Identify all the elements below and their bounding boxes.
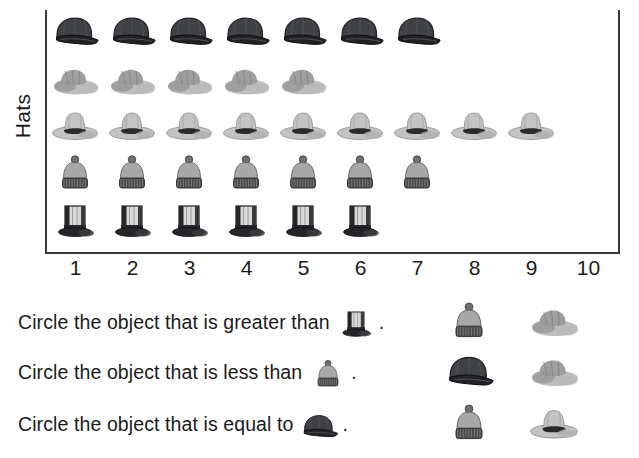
pictograph-icon-cell	[389, 102, 446, 149]
x-axis-tick: 4	[218, 256, 275, 280]
question-row: Circle the object that is less than.	[0, 350, 639, 398]
beanie-icon	[278, 153, 328, 193]
question-period: .	[379, 311, 385, 334]
cowboy-hat-icon[interactable]	[528, 402, 580, 444]
sun-hat-icon[interactable]	[528, 350, 580, 392]
pictograph-icon-cell	[161, 150, 218, 197]
x-axis-tick: 6	[332, 256, 389, 280]
right-border-line	[618, 10, 620, 253]
question-text: Circle the object that is greater than.	[18, 302, 384, 342]
pictograph-icon-cell	[47, 198, 104, 245]
beanie-icon[interactable]	[443, 402, 495, 444]
top-hat-icon	[164, 201, 214, 241]
beanie-icon[interactable]	[443, 300, 495, 342]
pictograph-icon-cell	[275, 102, 332, 149]
question-period: .	[342, 413, 348, 436]
baseball-cap-icon	[164, 11, 214, 51]
cowboy-hat-icon	[449, 105, 499, 145]
top-hat-icon	[107, 201, 157, 241]
pictograph-icon-cell	[218, 57, 275, 104]
baseball-cap-icon	[50, 11, 100, 51]
cowboy-hat-icon	[392, 105, 442, 145]
question-prompt: Circle the object that is equal to	[18, 413, 293, 436]
pictograph-icon-cell	[275, 8, 332, 55]
answer-option-cowboy-hat-icon[interactable]	[528, 402, 584, 446]
baseball-cap-icon	[335, 11, 385, 51]
pictograph-row	[47, 198, 617, 245]
pictograph-icon-cell	[104, 57, 161, 104]
pictograph-row	[47, 102, 617, 149]
question-subject-baseball-cap-icon	[299, 410, 339, 442]
answer-option-sun-hat-icon[interactable]	[528, 300, 584, 344]
top-hat-icon	[221, 201, 271, 241]
x-axis-tick: 7	[389, 256, 446, 280]
x-axis-tick-labels: 12345678910	[47, 256, 618, 286]
pictograph-icon-cell	[332, 8, 389, 55]
pictograph-plot-area	[47, 8, 617, 252]
x-axis-tick: 10	[560, 256, 617, 280]
x-axis-line	[45, 252, 620, 254]
y-axis-label: Hats	[11, 81, 35, 151]
beanie-icon	[50, 153, 100, 193]
pictograph-icon-cell	[389, 8, 446, 55]
x-axis-tick: 9	[503, 256, 560, 280]
pictograph-icon-cell	[161, 102, 218, 149]
answer-option-beanie-icon[interactable]	[443, 402, 499, 446]
answer-option-beanie-icon[interactable]	[443, 300, 499, 344]
top-hat-icon	[335, 201, 385, 241]
pictograph-icon-cell	[332, 150, 389, 197]
cowboy-hat-icon	[221, 105, 271, 145]
pictograph-icon-cell	[503, 102, 560, 149]
x-axis-tick: 1	[47, 256, 104, 280]
top-hat-icon	[278, 201, 328, 241]
pictograph-icon-cell	[389, 150, 446, 197]
pictograph-icon-cell	[104, 150, 161, 197]
sun-hat-icon	[164, 60, 214, 100]
pictograph-icon-cell	[218, 198, 275, 245]
question-text: Circle the object that is less than.	[18, 352, 357, 392]
sun-hat-icon	[50, 60, 100, 100]
pictograph-icon-cell	[218, 150, 275, 197]
pictograph-row	[47, 57, 617, 104]
pictograph-icon-cell	[275, 198, 332, 245]
question-prompt: Circle the object that is less than	[18, 361, 302, 384]
pictograph-icon-cell	[161, 198, 218, 245]
sun-hat-icon[interactable]	[528, 300, 580, 342]
x-axis-tick: 5	[275, 256, 332, 280]
x-axis-tick: 8	[446, 256, 503, 280]
pictograph-row	[47, 8, 617, 55]
pictograph-icon-cell	[104, 198, 161, 245]
beanie-icon	[221, 153, 271, 193]
question-text: Circle the object that is equal to.	[18, 404, 348, 444]
baseball-cap-icon	[278, 11, 328, 51]
pictograph-icon-cell	[218, 8, 275, 55]
pictograph-icon-cell	[47, 57, 104, 104]
cowboy-hat-icon	[164, 105, 214, 145]
beanie-icon	[392, 153, 442, 193]
pictograph-icon-cell	[218, 102, 275, 149]
cowboy-hat-icon	[506, 105, 556, 145]
baseball-cap-icon[interactable]	[443, 350, 495, 392]
sun-hat-icon	[221, 60, 271, 100]
pictograph-icon-cell	[332, 102, 389, 149]
pictograph-icon-cell	[332, 198, 389, 245]
pictograph-icon-cell	[275, 150, 332, 197]
pictograph-chart: Hats 12345678910	[0, 0, 639, 292]
x-axis-tick: 2	[104, 256, 161, 280]
beanie-icon	[164, 153, 214, 193]
question-row: Circle the object that is equal to.	[0, 402, 639, 450]
question-subject-top-hat-icon	[336, 308, 376, 340]
top-hat-icon	[50, 201, 100, 241]
pictograph-icon-cell	[161, 8, 218, 55]
sun-hat-icon	[278, 60, 328, 100]
pictograph-icon-cell	[446, 102, 503, 149]
pictograph-icon-cell	[275, 57, 332, 104]
cowboy-hat-icon	[278, 105, 328, 145]
pictograph-icon-cell	[161, 57, 218, 104]
pictograph-row	[47, 150, 617, 197]
sun-hat-icon	[107, 60, 157, 100]
answer-option-sun-hat-icon[interactable]	[528, 350, 584, 394]
answer-option-baseball-cap-icon[interactable]	[443, 350, 499, 394]
question-prompt: Circle the object that is greater than	[18, 311, 330, 334]
question-row: Circle the object that is greater than.	[0, 300, 639, 348]
